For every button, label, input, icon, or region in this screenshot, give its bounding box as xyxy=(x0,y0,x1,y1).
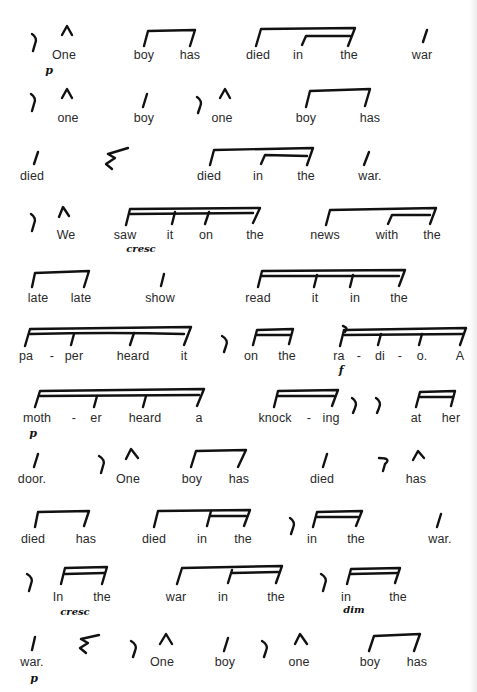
lyric-word: war. xyxy=(20,655,43,669)
lyric-word: the xyxy=(278,349,296,363)
dynamic-marking: p xyxy=(29,427,37,440)
eighth-rest-icon xyxy=(197,97,201,113)
stem-icon xyxy=(34,454,38,467)
lyric-word: one xyxy=(211,111,232,125)
accent-caret-icon xyxy=(126,449,138,459)
stem-icon xyxy=(71,334,74,345)
lyric-word: - xyxy=(307,411,311,425)
beam-icon xyxy=(306,89,370,107)
lyric-word: in xyxy=(350,291,360,305)
beam-icon xyxy=(258,270,405,287)
lyric-word: war. xyxy=(358,169,381,183)
stem-icon xyxy=(143,94,147,107)
dynamic-marking: p xyxy=(30,672,38,685)
accent-caret-icon xyxy=(413,451,424,460)
stem-icon xyxy=(419,334,422,345)
accent-caret-icon xyxy=(62,26,72,35)
lyric-word: in xyxy=(293,48,303,62)
lyric-word: the xyxy=(340,48,358,62)
beam-icon xyxy=(61,567,107,584)
rhythm-marks-row-3 xyxy=(0,140,470,200)
score-row-3: died died in the war. xyxy=(0,140,470,200)
lyric-word: One xyxy=(52,48,76,62)
beam-icon xyxy=(40,395,199,396)
lyric-word: in xyxy=(197,532,207,546)
eighth-rest-icon xyxy=(262,641,267,657)
beam-icon xyxy=(207,511,246,526)
beam-icon xyxy=(416,391,455,407)
eighth-rest-icon xyxy=(379,458,387,471)
beam-icon xyxy=(228,570,278,583)
lyric-word: late xyxy=(28,291,49,305)
lyric-word: boy xyxy=(182,472,202,486)
stem-icon xyxy=(161,274,164,286)
lyric-word: - xyxy=(50,349,54,363)
accent-caret-icon xyxy=(59,207,69,217)
lyric-word: has xyxy=(229,472,249,486)
quarter-rest-icon xyxy=(80,635,99,653)
lyric-word: war xyxy=(412,48,432,62)
stem-icon xyxy=(130,333,134,345)
stem-icon xyxy=(423,30,427,42)
accent-caret-icon xyxy=(220,89,230,98)
score-row-11: war. One boy one boy has p xyxy=(0,622,470,682)
lyric-word: the xyxy=(93,590,111,604)
lyric-word: the xyxy=(246,228,264,242)
dynamic-marking: dim xyxy=(343,604,364,615)
lyric-word: with xyxy=(376,228,399,242)
beam-icon xyxy=(369,634,420,651)
lyric-word: boy xyxy=(134,111,154,125)
stem-icon xyxy=(143,396,146,407)
eighth-rest-icon xyxy=(352,398,356,413)
lyric-word: pa xyxy=(19,349,33,363)
lyric-word: has xyxy=(180,48,200,62)
score-row-1: One boy has died in the war p xyxy=(0,20,470,80)
lyric-word: has xyxy=(406,472,426,486)
lyric-word: has xyxy=(407,655,427,669)
eighth-rest-icon xyxy=(31,94,35,111)
score-row-7: moth - er heard a knock - ing at her p xyxy=(0,382,470,442)
beam-icon xyxy=(25,327,191,346)
rhythm-marks-row-2 xyxy=(0,80,470,140)
beam-icon xyxy=(347,568,400,584)
rhythm-marks-row-11 xyxy=(0,622,470,682)
lyric-word: the xyxy=(297,169,315,183)
lyric-word: one xyxy=(288,655,309,669)
lyric-word: has xyxy=(76,532,96,546)
lyric-word: the xyxy=(390,291,408,305)
score-row-8: door. One boy has died has xyxy=(0,442,470,502)
lyric-word: A xyxy=(456,349,464,363)
beam-icon xyxy=(351,573,398,574)
lyric-word: boy xyxy=(134,48,154,62)
lyric-word: died xyxy=(246,48,270,62)
lyric-word: died xyxy=(197,169,221,183)
lyric-word: show xyxy=(145,291,175,305)
eighth-rest-icon xyxy=(27,574,32,591)
lyric-word: the xyxy=(423,228,441,242)
lyric-word: the xyxy=(234,532,252,546)
lyric-word: in xyxy=(341,590,351,604)
dynamic-marking: f xyxy=(339,364,344,377)
lyric-word: the xyxy=(267,590,285,604)
lyric-word: knock xyxy=(258,411,291,425)
lyric-word: it xyxy=(181,349,187,363)
lyric-word: door. xyxy=(18,472,46,486)
lyric-word: boy xyxy=(296,111,316,125)
lyric-word: her xyxy=(442,411,460,425)
lyric-word: We xyxy=(57,228,76,242)
page-edge-shadow xyxy=(469,0,477,692)
lyric-word: the xyxy=(347,532,365,546)
lyric-word: it xyxy=(312,291,318,305)
eighth-rest-icon xyxy=(321,574,326,591)
lyric-word: per xyxy=(65,349,83,363)
lyric-word: One xyxy=(150,655,174,669)
beam-icon xyxy=(274,390,338,407)
lyric-word: heard xyxy=(117,349,149,363)
eighth-rest-icon xyxy=(376,398,380,413)
accent-caret-icon xyxy=(295,634,307,644)
accent-caret-icon xyxy=(62,89,72,98)
stem-icon xyxy=(32,637,35,650)
beam-icon xyxy=(154,510,250,527)
lyric-word: has xyxy=(360,111,380,125)
beam-icon xyxy=(302,36,350,45)
